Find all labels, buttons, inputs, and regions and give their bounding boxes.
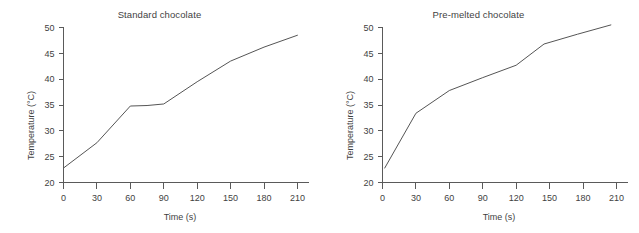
y-tick-label: 25 bbox=[44, 152, 54, 162]
y-tick-label: 35 bbox=[44, 100, 54, 110]
y-tick-label: 30 bbox=[363, 126, 373, 136]
x-tick-label: 0 bbox=[380, 193, 385, 203]
y-tick-label: 40 bbox=[44, 74, 54, 84]
x-tick-label: 90 bbox=[478, 193, 488, 203]
y-tick-label: 25 bbox=[363, 152, 373, 162]
chart-panel-standard-chocolate: Standard chocolate Temperature (°C) Time… bbox=[0, 0, 319, 233]
x-tick-label: 180 bbox=[256, 193, 271, 203]
y-tick-label: 20 bbox=[363, 178, 373, 188]
x-tick-label: 60 bbox=[125, 193, 135, 203]
y-tick-label: 50 bbox=[44, 23, 54, 33]
x-tick-label: 30 bbox=[92, 193, 102, 203]
x-tick-label: 60 bbox=[444, 193, 454, 203]
data-series-line bbox=[385, 25, 611, 168]
figure-container: Standard chocolate Temperature (°C) Time… bbox=[0, 0, 639, 233]
x-tick-label: 0 bbox=[61, 193, 66, 203]
data-series-line bbox=[64, 35, 298, 168]
plot-area-left: 202530354045500306090120150180210 bbox=[0, 0, 319, 233]
plot-area-right: 202530354045500306090120150180210 bbox=[319, 0, 638, 233]
y-tick-label: 20 bbox=[44, 178, 54, 188]
x-tick-label: 180 bbox=[575, 193, 590, 203]
y-tick-label: 40 bbox=[363, 74, 373, 84]
x-tick-label: 90 bbox=[159, 193, 169, 203]
x-tick-label: 210 bbox=[609, 193, 624, 203]
x-tick-label: 30 bbox=[411, 193, 421, 203]
y-tick-label: 30 bbox=[44, 126, 54, 136]
x-tick-label: 210 bbox=[290, 193, 305, 203]
y-tick-label: 35 bbox=[363, 100, 373, 110]
x-tick-label: 120 bbox=[190, 193, 205, 203]
x-tick-label: 120 bbox=[509, 193, 524, 203]
y-tick-label: 45 bbox=[363, 49, 373, 59]
y-tick-label: 50 bbox=[363, 23, 373, 33]
y-tick-label: 45 bbox=[44, 49, 54, 59]
chart-panel-pre-melted-chocolate: Pre-melted chocolate Temperature (°C) Ti… bbox=[319, 0, 638, 233]
x-tick-label: 150 bbox=[223, 193, 238, 203]
x-tick-label: 150 bbox=[542, 193, 557, 203]
